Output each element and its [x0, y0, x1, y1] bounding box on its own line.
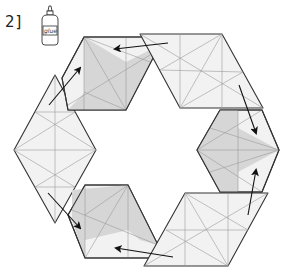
glue-bottle-icon: glue — [42, 6, 58, 45]
right-unit — [197, 110, 279, 192]
bottom-left-unit — [68, 185, 158, 258]
top-right-unit — [140, 34, 263, 108]
glue-label: glue — [44, 27, 57, 35]
assembly-diagram: glue — [0, 0, 282, 276]
